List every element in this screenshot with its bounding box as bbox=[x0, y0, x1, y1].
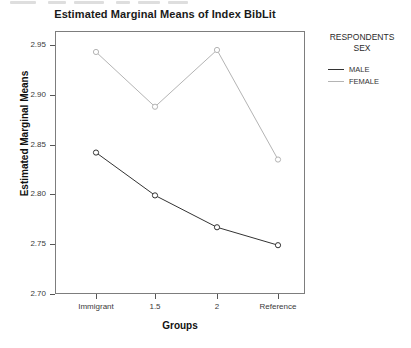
plot-series-layer bbox=[55, 31, 305, 294]
series-line-female bbox=[96, 50, 278, 160]
data-point-marker bbox=[214, 47, 219, 52]
chart-title: Estimated Marginal Means of Index BibLit bbox=[0, 8, 330, 20]
data-point-marker bbox=[93, 150, 98, 155]
legend-title-line-2: SEX bbox=[318, 43, 406, 54]
data-point-marker bbox=[152, 104, 157, 109]
y-tick-label: 2.95 bbox=[16, 40, 46, 49]
x-tick-mark bbox=[155, 294, 156, 299]
y-tick-mark bbox=[50, 145, 55, 146]
data-point-marker bbox=[275, 157, 280, 162]
legend-title-line-1: RESPONDENTS bbox=[318, 32, 406, 43]
x-tick-mark bbox=[278, 294, 279, 299]
x-tick-mark bbox=[217, 294, 218, 299]
legend-item-label: FEMALE bbox=[349, 77, 379, 86]
y-axis-title: Estimated Marginal Means bbox=[19, 34, 30, 234]
legend-items: MALEFEMALE bbox=[318, 63, 410, 87]
y-tick-label: 2.90 bbox=[16, 90, 46, 99]
y-tick-label: 2.85 bbox=[16, 140, 46, 149]
y-tick-label: 2.75 bbox=[16, 239, 46, 248]
y-tick-mark bbox=[50, 294, 55, 295]
scan-artifact bbox=[4, 0, 194, 6]
x-tick-mark bbox=[96, 294, 97, 299]
data-point-marker bbox=[214, 225, 219, 230]
data-point-marker bbox=[152, 193, 157, 198]
legend-title: RESPONDENTS SEX bbox=[318, 32, 406, 54]
y-tick-mark bbox=[50, 95, 55, 96]
data-point-marker bbox=[275, 243, 280, 248]
legend-item-label: MALE bbox=[349, 65, 369, 74]
y-tick-mark bbox=[50, 45, 55, 46]
x-axis-title: Groups bbox=[55, 320, 305, 331]
legend-line-swatch bbox=[328, 69, 344, 70]
legend: RESPONDENTS SEX MALEFEMALE bbox=[318, 32, 410, 87]
y-tick-mark bbox=[50, 194, 55, 195]
y-tick-label: 2.70 bbox=[16, 289, 46, 298]
y-tick-label: 2.80 bbox=[16, 189, 46, 198]
x-tick-label: Reference bbox=[238, 302, 318, 311]
estimated-marginal-means-line-chart: Estimated Marginal Means of Index BibLit… bbox=[0, 0, 411, 348]
y-tick-mark bbox=[50, 244, 55, 245]
data-point-marker bbox=[93, 49, 98, 54]
series-line-male bbox=[96, 153, 278, 246]
legend-line-swatch bbox=[328, 81, 344, 82]
legend-item-female[interactable]: FEMALE bbox=[328, 75, 410, 87]
legend-item-male[interactable]: MALE bbox=[328, 63, 410, 75]
